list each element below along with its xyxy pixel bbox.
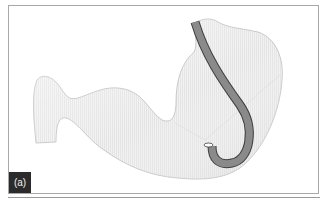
panel-label: (a) — [9, 172, 31, 193]
stomach-diagram — [0, 0, 325, 201]
endoscope-tip — [204, 143, 213, 147]
